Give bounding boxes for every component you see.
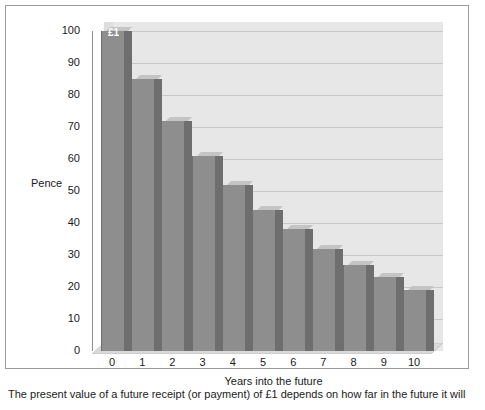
x-tick-label: 10 <box>399 356 429 368</box>
bar-chart: 0102030405060708090100 £1 012345678910 P… <box>0 0 485 410</box>
bar-front-face <box>252 210 275 351</box>
y-axis-line <box>92 31 93 351</box>
bar <box>403 281 434 351</box>
figure-caption: The present value of a future receipt (o… <box>8 387 478 401</box>
y-tick-label: 0 <box>46 345 80 356</box>
bar-front-face <box>312 249 335 351</box>
bar-top-face <box>161 112 192 121</box>
x-tick-label: 6 <box>278 356 308 368</box>
x-tick-label: 3 <box>188 356 218 368</box>
bar-top-face <box>131 70 162 79</box>
y-tick-label: 60 <box>46 153 80 164</box>
y-tick-label: 40 <box>46 217 80 228</box>
bar-top-face <box>192 147 223 156</box>
bar <box>131 70 162 351</box>
bar-top-face <box>252 201 283 210</box>
chart-page: 0102030405060708090100 £1 012345678910 P… <box>0 0 485 410</box>
bar <box>282 220 313 351</box>
bar-top-face <box>312 240 343 249</box>
bar-annotation-pound-one: £1 <box>108 27 119 38</box>
x-axis-title: Years into the future <box>104 375 443 387</box>
y-axis-title: Pence <box>31 177 62 189</box>
bar <box>373 268 404 351</box>
bar <box>222 176 253 351</box>
bar <box>101 22 132 351</box>
bar-front-face <box>161 121 184 351</box>
bar-front-face <box>343 265 366 351</box>
x-tick-label: 9 <box>369 356 399 368</box>
bar-front-face <box>131 79 154 351</box>
bar-front-face <box>192 156 215 351</box>
bar-front-face <box>101 31 124 351</box>
y-tick-label: 30 <box>46 249 80 260</box>
x-tick-label: 0 <box>97 356 127 368</box>
bar <box>161 112 192 351</box>
x-tick-label: 7 <box>308 356 338 368</box>
y-tick-label: 90 <box>46 57 80 68</box>
bar-front-face <box>222 185 245 351</box>
gridline <box>104 31 443 32</box>
x-tick-label: 2 <box>157 356 187 368</box>
bar-side-face <box>425 290 434 351</box>
x-tick-label: 1 <box>127 356 157 368</box>
bar-top-face <box>222 176 253 185</box>
bar-top-face <box>282 220 313 229</box>
x-tick-label: 5 <box>248 356 278 368</box>
bar <box>343 256 374 351</box>
bar-top-face <box>373 268 404 277</box>
y-tick-label: 100 <box>46 25 80 36</box>
bar <box>252 201 283 351</box>
bar-front-face <box>403 290 426 351</box>
y-tick-label: 10 <box>46 313 80 324</box>
y-tick-label: 70 <box>46 121 80 132</box>
y-tick-label: 20 <box>46 281 80 292</box>
bar-front-face <box>373 277 396 351</box>
x-tick-label: 8 <box>339 356 369 368</box>
bar-top-face <box>343 256 374 265</box>
y-tick-label: 80 <box>46 89 80 100</box>
bar-front-face <box>282 229 305 351</box>
bar <box>192 147 223 351</box>
gridline <box>104 63 443 64</box>
bar-top-face <box>403 281 434 290</box>
bar <box>312 240 343 351</box>
x-tick-label: 4 <box>218 356 248 368</box>
